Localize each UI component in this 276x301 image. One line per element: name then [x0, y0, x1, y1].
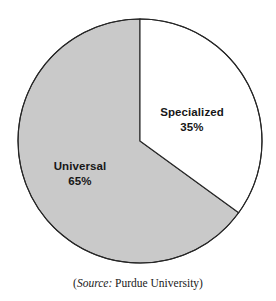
pie-chart-figure: Specialized 35% Universal 65% (Source: P… [0, 0, 276, 301]
pie-label-specialized: Specialized 35% [142, 105, 242, 135]
source-caption: (Source: Purdue University) [0, 276, 276, 290]
caption-close-paren: ) [199, 277, 203, 289]
caption-source-value: Purdue University [112, 277, 199, 289]
pie-label-specialized-value: 35% [142, 120, 242, 135]
pie-chart-graphic [0, 0, 276, 301]
pie-label-universal-value: 65% [30, 174, 130, 189]
caption-source-label: Source: [77, 277, 112, 289]
pie-label-specialized-name: Specialized [142, 105, 242, 120]
pie-label-universal: Universal 65% [30, 159, 130, 189]
pie-label-universal-name: Universal [30, 159, 130, 174]
